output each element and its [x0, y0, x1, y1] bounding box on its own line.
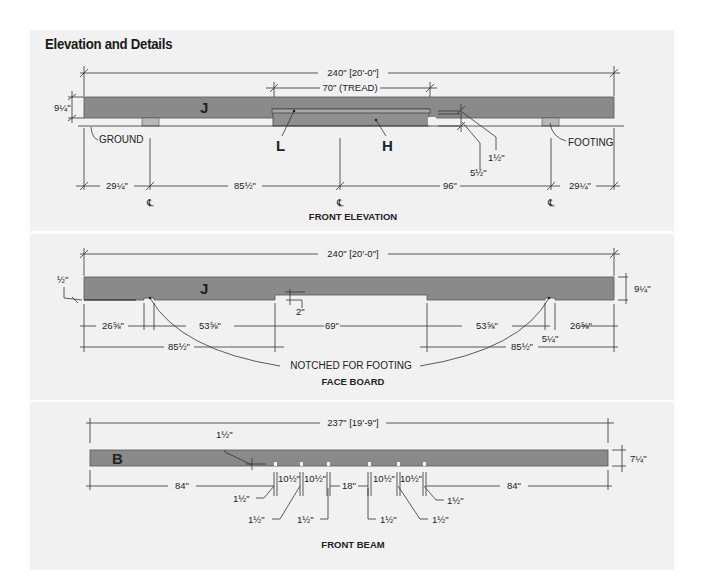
part-label-l: L [276, 137, 285, 154]
centerline-icon: ℄ [336, 197, 344, 208]
left-offset-dim: ½" [57, 274, 68, 285]
slot-width-top-dim: 1½" [216, 429, 233, 440]
front-beam-b [90, 450, 608, 466]
part-label-j: J [200, 99, 208, 116]
drawing-canvas: 240" [20'-0"] 70" (TREAD) 1½" 5½" G [0, 0, 702, 586]
step-dim-1-5: 1½" [488, 152, 505, 163]
caption-front-beam: FRONT BEAM [321, 539, 384, 550]
caption-face-board: FACE BOARD [322, 376, 385, 387]
front-elevation-drawing: 240" [20'-0"] 70" (TREAD) 1½" 5½" G [54, 66, 624, 222]
slot-dim-2: 1½" [248, 514, 265, 525]
dim-18: 18" [342, 480, 356, 491]
dim-29-left: 29¼" [106, 180, 128, 191]
part-label-b: B [112, 450, 123, 467]
dim-85-left: 85½" [168, 341, 190, 352]
step-dim-5-5: 5½" [470, 167, 487, 178]
face-board-j [84, 277, 614, 300]
tread-l [272, 109, 430, 113]
dim-84-left: 84" [175, 480, 189, 491]
dim-85-right: 85½" [511, 341, 533, 352]
caption-front-elevation: FRONT ELEVATION [309, 211, 397, 222]
beam-height-dim: 7¼" [630, 453, 647, 464]
face-board-drawing: 240" [20'-0"] J ½" 2" 9¼" [57, 248, 651, 387]
dim-84-right: 84" [507, 480, 521, 491]
dim-10-5-c: 10½" [373, 473, 395, 484]
dim-10-5-d: 10½" [400, 473, 422, 484]
dim-53-right: 53⅝" [476, 320, 498, 331]
centerline-icon: ℄ [146, 197, 154, 208]
notch-depth-dim: 2" [296, 306, 305, 317]
board-height-dim: 9¼" [54, 102, 71, 113]
part-label-j: J [200, 280, 208, 297]
overall-length-dim: 237" [19'-9"] [327, 417, 378, 428]
ground-label: GROUND [99, 134, 143, 145]
dim-10-5-a: 10½" [278, 473, 300, 484]
slot-dim-1: 1½" [233, 493, 250, 504]
dim-96: 96" [443, 180, 457, 191]
board-height-dim: 9¼" [634, 283, 651, 294]
slot-dim-4: 1½" [380, 514, 397, 525]
part-label-h: H [382, 137, 393, 154]
footing-left [142, 118, 159, 126]
centerline-icon: ℄ [547, 197, 555, 208]
slot-dim-5: 1½" [432, 514, 449, 525]
dim-10-5-b: 10½" [304, 473, 326, 484]
dim-53-left: 53⅝" [199, 320, 221, 331]
dim-85: 85½" [234, 180, 256, 191]
dim-29-right: 29¼" [569, 180, 591, 191]
overall-length-dim: 240" [20'-0"] [327, 248, 378, 259]
dim-69: 69" [325, 320, 339, 331]
footing-label: FOOTING [568, 137, 614, 148]
slot-dim-3: 1½" [297, 514, 314, 525]
slot-dim-6: 1½" [447, 495, 464, 506]
overall-length-dim: 240" [20'-0"] [327, 67, 378, 78]
tread-length-dim: 70" (TREAD) [322, 82, 377, 93]
notch-width-dim: 5¼" [542, 333, 559, 344]
notched-for-footing-note: NOTCHED FOR FOOTING [290, 360, 412, 371]
dim-26-left: 26⅝" [102, 320, 124, 331]
front-beam-drawing: 237" [19'-9"] B 1½" 7¼" [86, 417, 647, 550]
dim-26-right: 26⅝" [570, 320, 592, 331]
